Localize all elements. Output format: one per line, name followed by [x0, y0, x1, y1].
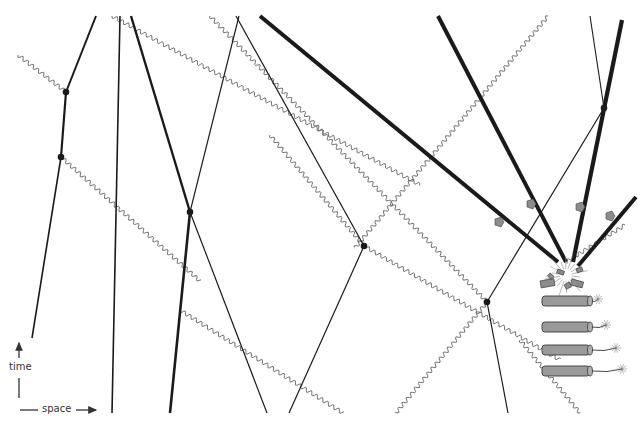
dynamite-stick-3 [542, 343, 621, 355]
wl-e2 [289, 246, 364, 413]
dynamite-stick-4 [542, 364, 627, 376]
time-axis-label: time [9, 361, 32, 372]
exploding-stick-fragment-icon [570, 279, 583, 288]
wl-g [590, 16, 604, 108]
photon-wavy-lines [18, 16, 625, 414]
wl-a3 [32, 157, 61, 338]
fuse-icon [592, 369, 622, 372]
exploding-stick-fragment-icon [557, 269, 565, 275]
debris-fragment-icon [606, 211, 615, 221]
wl-c [131, 16, 190, 212]
event-2 [58, 154, 65, 161]
wl-d2 [190, 212, 267, 413]
photon-1 [18, 55, 65, 93]
photon-8 [354, 16, 548, 248]
debris-3 [573, 20, 622, 262]
photon-4 [210, 16, 487, 303]
burst-ray-icon [572, 276, 580, 277]
debris-worldlines [260, 16, 636, 266]
event-5 [484, 299, 491, 306]
event-6 [601, 105, 608, 112]
wl-f [487, 302, 508, 413]
event-3 [187, 209, 194, 216]
photon-3 [112, 16, 420, 186]
wl-d [190, 16, 239, 212]
exploding-stick-fragment-icon [540, 279, 555, 288]
burst-ray-icon [557, 280, 562, 286]
spacetime-diagram [0, 0, 638, 430]
dynamite-group [542, 294, 627, 376]
photon-7 [180, 310, 344, 413]
wl-a [66, 16, 96, 92]
particle-worldlines [32, 16, 604, 413]
debris-4 [578, 197, 636, 266]
photon-5 [269, 135, 363, 247]
event-1 [63, 89, 70, 96]
wl-c2 [170, 212, 190, 413]
photon-9 [395, 302, 487, 413]
photon-6 [364, 246, 561, 360]
burst-ray-icon [570, 264, 575, 270]
event-dots [58, 89, 608, 306]
dynamite-body-icon [542, 322, 590, 332]
wl-a2 [61, 92, 66, 157]
dynamite-body-icon [542, 366, 590, 376]
wl-b [112, 16, 120, 413]
space-axis-label: space [42, 403, 71, 414]
dynamite-stick-2 [542, 320, 611, 332]
event-4 [361, 243, 368, 250]
dynamite-body-icon [542, 345, 590, 355]
fuse-icon [592, 348, 616, 351]
dynamite-stick-1 [542, 294, 603, 306]
dynamite-body-icon [542, 296, 590, 306]
burst-ray-icon [561, 262, 564, 269]
